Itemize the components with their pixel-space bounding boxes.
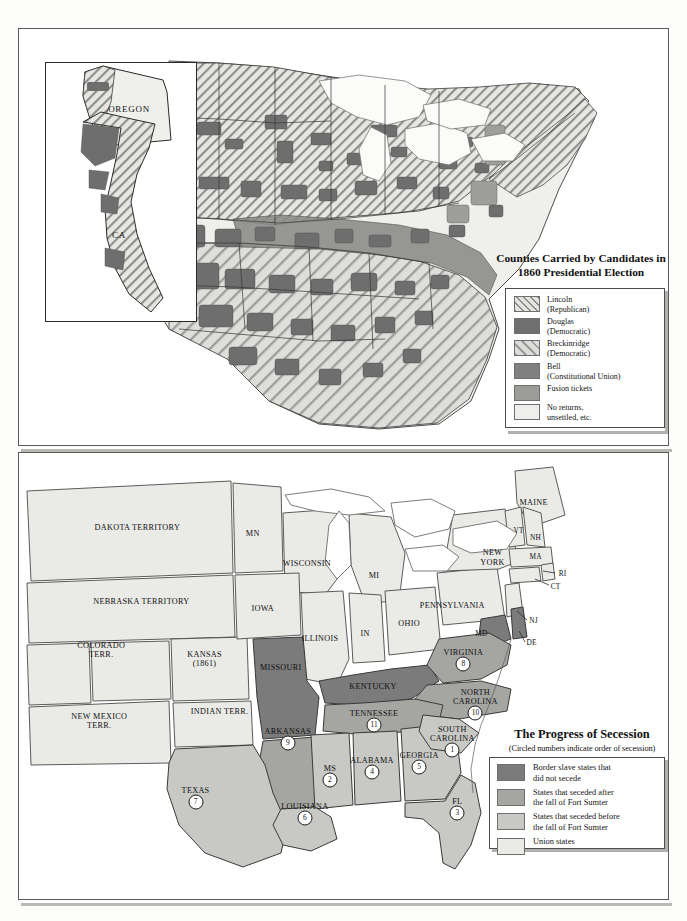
legend-item-fusion: Fusion tickets [514,384,658,401]
legend-label-lincoln: Lincoln (Republican) [547,295,589,315]
legend-swatch-union [497,838,525,855]
secession-order-badge-georgia: 5 [412,760,427,775]
secession-subtitle-text: (Circled numbers indicate order of seces… [487,744,677,754]
election-legend: Lincoln (Republican) Douglas (Democratic… [505,288,665,428]
state-minnesota [233,483,283,573]
secession-title-text: The Progress of Secession [514,727,650,741]
legend-swatch-lincoln [514,296,540,312]
legend-swatch-fusion [514,385,540,401]
legend-label-bell: Bell (Constitutional Union) [547,362,621,382]
legend-item-union: Union states [497,837,659,855]
legend-swatch-before-sumter [497,813,525,830]
state-connecticut [509,567,541,583]
state-mississippi [311,733,353,809]
election-legend-shadow-right [665,291,668,434]
state-indian-territory [173,701,253,747]
legend-item-bell: Bell (Constitutional Union) [514,362,658,382]
legend-swatch-douglas [514,318,540,334]
secession-order-badge-north-carolina: 10 [468,706,483,721]
legend-swatch-border-slave [497,764,525,781]
legend-label-breckinridge: Breckinridge (Democratic) [547,339,590,359]
legend-swatch-after-sumter [497,789,525,806]
secession-panel-shadow [21,903,672,906]
legend-swatch-bell [514,363,540,379]
legend-label-fusion: Fusion tickets [547,384,592,394]
state-utah-territory [27,643,91,705]
secession-order-badge-texas: 7 [188,794,203,809]
map-page: OREGON CA Counties Carried by Candidates… [0,0,687,921]
secession-map-title: The Progress of Secession (Circled numbe… [487,727,677,754]
legend-item-no-returns: No returns, unsettled, etc. [514,403,658,423]
legend-swatch-breckinridge [514,340,540,356]
state-nebraska-territory [27,575,235,643]
election-map-title: Counties Carried by Candidates in 1860 P… [488,252,674,280]
election-legend-shadow-bottom [508,431,668,434]
inset-label-oregon: OREGON [108,104,150,114]
legend-item-border-slave: Border slave states that did not secede [497,763,659,785]
secession-order-badge-virginia: 8 [456,656,471,671]
state-kansas [171,637,249,701]
legend-label-border-slave: Border slave states that did not secede [533,763,611,785]
state-new-mexico-territory [29,701,171,765]
secession-order-badge-louisiana: 6 [297,810,312,825]
state-michigan [349,513,405,603]
secession-order-badge-arkansas: 9 [280,736,295,751]
inset-label-ca: CA [112,230,126,240]
pacific-coast-inset-graphic: OREGON CA [45,62,197,322]
secession-legend-shadow-right [665,760,668,852]
legend-label-before-sumter: States that seceded before the fall of F… [533,812,620,834]
legend-item-before-sumter: States that seceded before the fall of F… [497,812,659,834]
secession-order-badge-tennessee: 11 [367,718,382,733]
state-colorado-territory [91,641,171,701]
legend-item-breckinridge: Breckinridge (Democratic) [514,339,658,359]
legend-item-lincoln: Lincoln (Republican) [514,295,658,315]
lake-superior [285,489,385,515]
secession-order-badge-alabama: 4 [365,765,380,780]
legend-label-douglas: Douglas (Democratic) [547,317,590,337]
state-ohio [385,587,441,655]
legend-label-after-sumter: States that seceded after the fall of Fo… [533,788,614,810]
legend-item-after-sumter: States that seceded after the fall of Fo… [497,788,659,810]
state-iowa [235,573,301,639]
state-dakota-territory [27,481,233,581]
secession-legend: Border slave states that did not secede … [489,757,665,849]
legend-label-no-returns: No returns, unsettled, etc. [547,403,592,423]
secession-order-badge-ms: 2 [322,773,337,788]
legend-item-douglas: Douglas (Democratic) [514,317,658,337]
lake-huron [391,499,455,537]
secession-order-badge-south-carolina: 1 [445,743,460,758]
legend-label-union: Union states [533,837,575,848]
state-illinois [301,591,349,685]
state-delaware [511,607,527,639]
secession-order-badge-fl: 3 [450,805,465,820]
legend-swatch-no-returns [514,404,540,420]
state-indiana [349,593,385,663]
